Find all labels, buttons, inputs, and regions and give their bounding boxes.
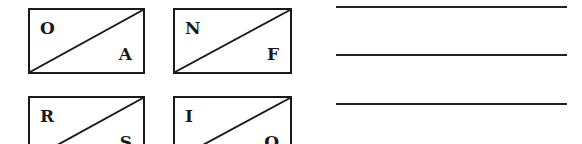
- box-2-top-left-letter: N: [185, 20, 201, 37]
- answer-line-1: [336, 6, 567, 8]
- letter-box-2: N F: [173, 8, 292, 74]
- box-3-top-left-letter: R: [40, 108, 54, 125]
- letter-box-1: O A: [28, 8, 145, 74]
- box-1-top-left-letter: O: [40, 20, 55, 37]
- letter-box-3: R S: [28, 96, 145, 144]
- box-4-bottom-right-letter: O: [264, 134, 279, 144]
- answer-line-3: [336, 103, 567, 105]
- answer-line-2: [336, 54, 567, 56]
- box-3-bottom-right-letter: S: [120, 134, 132, 144]
- letter-box-4: I O: [173, 96, 292, 144]
- box-4-top-left-letter: I: [185, 108, 193, 125]
- box-2-bottom-right-letter: F: [267, 46, 279, 63]
- box-1-bottom-right-letter: A: [119, 46, 132, 63]
